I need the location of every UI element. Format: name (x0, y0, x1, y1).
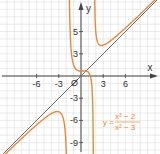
y-axis-label: y (86, 3, 91, 14)
y-tick-label: 3 (73, 49, 78, 59)
y-tick-label: -6 (70, 115, 78, 125)
formula-denominator: x² − 3 (115, 123, 136, 132)
origin-label: Ø (71, 78, 78, 88)
x-tick-label: -6 (33, 79, 41, 89)
x-tick-label: 3 (101, 79, 106, 89)
y-tick-label: 5 (73, 27, 78, 37)
x-tick-label: -3 (55, 79, 63, 89)
x-tick-label: 6 (123, 79, 128, 89)
function-formula: y = x³ − 2 x² − 3 (103, 112, 140, 132)
function-plot: -6-336Ø53-3-6-9xy y = x³ − 2 x² − 3 (0, 0, 160, 154)
formula-lhs: y = (103, 118, 114, 127)
y-tick-label: -9 (70, 138, 78, 148)
formula-numerator: x³ − 2 (115, 112, 136, 121)
x-axis-arrow-icon (150, 74, 158, 79)
x-axis-label: x (148, 62, 153, 73)
y-axis-arrow-icon (79, 2, 84, 10)
y-tick-label: -3 (70, 93, 78, 103)
